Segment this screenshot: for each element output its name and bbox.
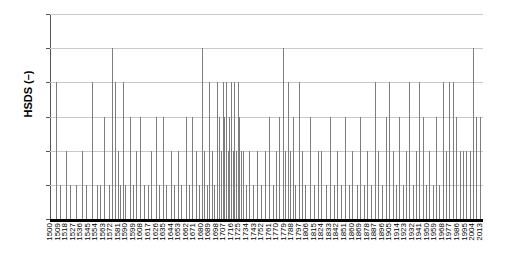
bar [285, 151, 286, 219]
bar [231, 82, 232, 219]
bar [352, 151, 353, 219]
bar [224, 117, 225, 220]
bar [166, 185, 167, 219]
bar [439, 185, 440, 219]
bar [112, 48, 113, 219]
bar [234, 82, 235, 219]
bar [246, 185, 247, 219]
y-axis-title: HSDS (–) [22, 34, 34, 154]
bar [371, 185, 372, 219]
bar [133, 185, 134, 219]
bar [76, 185, 77, 219]
bar [382, 185, 383, 219]
bar [449, 82, 450, 219]
bar [318, 151, 319, 219]
bar [419, 82, 420, 219]
bar [207, 185, 208, 219]
bar [125, 185, 126, 219]
bar [219, 117, 220, 220]
bar [202, 48, 203, 219]
bar [186, 117, 187, 220]
bar [393, 151, 394, 219]
bar [192, 117, 193, 220]
bar [196, 151, 197, 219]
bar [321, 151, 322, 219]
bar [249, 151, 250, 219]
bar [443, 82, 444, 219]
bar [130, 117, 131, 220]
bar [299, 82, 300, 219]
bar [239, 117, 240, 220]
bar [140, 117, 141, 220]
bar [429, 151, 430, 219]
bar [360, 117, 361, 220]
bar [357, 185, 358, 219]
hsds-bar-chart: HSDS (–) 0123456 15001509151815271536154… [0, 0, 508, 266]
bar [399, 117, 400, 220]
bar [92, 82, 93, 219]
bar [349, 185, 350, 219]
bar [217, 82, 218, 219]
bar [423, 117, 424, 220]
bar [480, 117, 481, 220]
bar [283, 48, 284, 219]
bar [229, 117, 230, 220]
bar [178, 151, 179, 219]
bar [257, 151, 258, 219]
bar [199, 185, 200, 219]
bar [375, 82, 376, 219]
bar [409, 82, 410, 219]
bar [389, 82, 390, 219]
bar [253, 185, 254, 219]
gridline [50, 48, 483, 49]
bar [473, 48, 474, 219]
bar [174, 185, 175, 219]
bar [345, 117, 346, 220]
bar [456, 117, 457, 220]
bar [463, 151, 464, 219]
bar [123, 82, 124, 219]
bar [290, 151, 291, 219]
gridline [50, 14, 483, 15]
bar [453, 82, 454, 219]
bar [378, 151, 379, 219]
bar [136, 151, 137, 219]
bar [209, 82, 210, 219]
bar [243, 151, 244, 219]
bar [476, 117, 477, 220]
bar [120, 185, 121, 219]
bar [293, 117, 294, 220]
bar [214, 185, 215, 219]
bar [406, 151, 407, 219]
bar [100, 185, 101, 219]
bar [70, 185, 71, 219]
bar [466, 151, 467, 219]
bar [151, 151, 152, 219]
bar [226, 82, 227, 219]
bar [273, 185, 274, 219]
bar [364, 185, 365, 219]
bar [144, 185, 145, 219]
bar [446, 151, 447, 219]
bar [288, 82, 289, 219]
bar [109, 185, 110, 219]
bar [148, 185, 149, 219]
bar [314, 185, 315, 219]
bar [118, 151, 119, 219]
bar [261, 185, 262, 219]
bar [337, 151, 338, 219]
bar [403, 185, 404, 219]
bar [386, 117, 387, 220]
bar [426, 185, 427, 219]
bar [241, 151, 242, 219]
plot-area [50, 14, 483, 219]
bar [326, 185, 327, 219]
bar [330, 117, 331, 220]
bar [433, 185, 434, 219]
bar [236, 151, 237, 219]
x-axis-line [50, 219, 483, 222]
bar [310, 117, 311, 220]
bar [265, 151, 266, 219]
bar [396, 185, 397, 219]
bar [269, 117, 270, 220]
